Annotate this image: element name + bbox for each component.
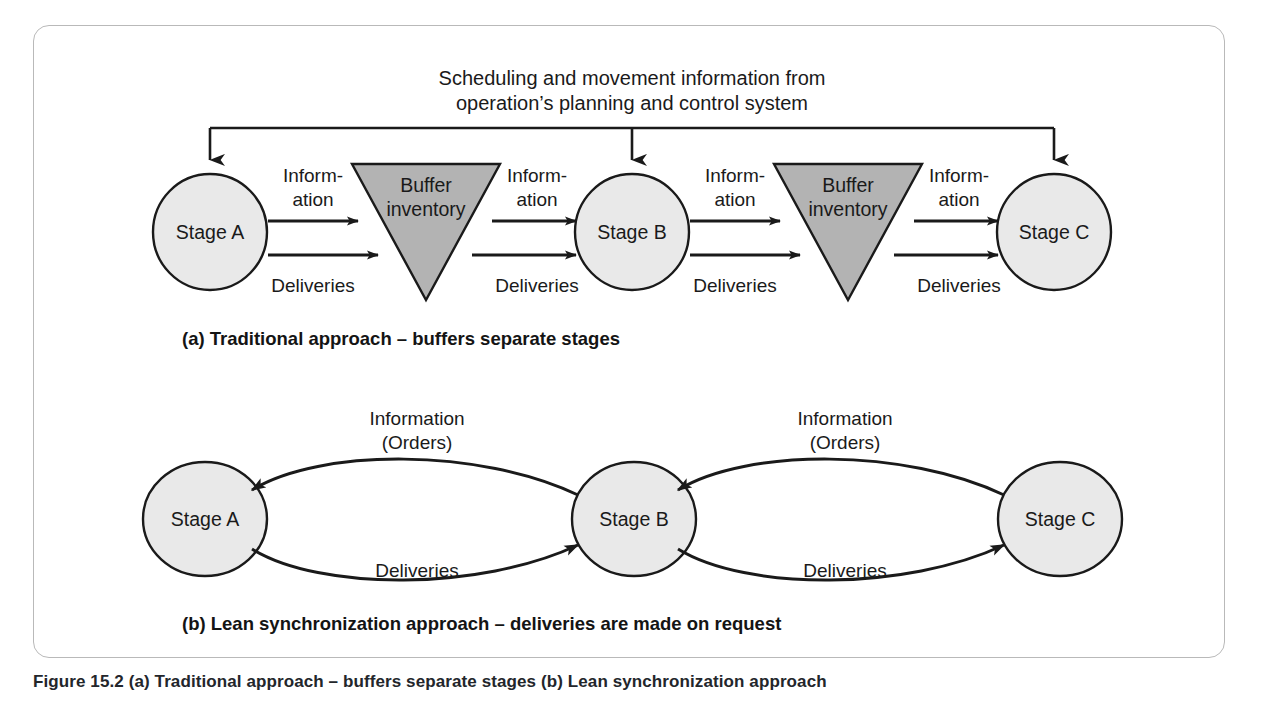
panel-b-stage-a-label: Stage A (171, 508, 239, 530)
diagram-canvas: Scheduling and movement information from… (0, 0, 1264, 702)
panel-a-buffer-2-label-line1: Buffer (822, 174, 874, 196)
panel-b-information-arc-2 (678, 459, 1004, 495)
panel-b-stage-c-label: Stage C (1025, 508, 1095, 530)
panel-a-deliveries-label-1: Deliveries (271, 275, 354, 296)
panel-b-information-label-1-line1: Information (369, 408, 464, 429)
panel-b-group: Stage A Stage B Stage C Information (Ord… (143, 408, 1122, 634)
panel-a-buffer-2-label-line2: inventory (808, 198, 887, 220)
panel-a-buffer-1-label-line2: inventory (386, 198, 465, 220)
panel-a-buffer-1-label-line1: Buffer (400, 174, 452, 196)
panel-b-information-label-1-line2: (Orders) (382, 432, 453, 453)
panel-a-information-label-4-line1: Inform- (929, 165, 989, 186)
panel-a-group: Scheduling and movement information from… (153, 67, 1111, 349)
figure-root: Scheduling and movement information from… (0, 0, 1264, 702)
panel-a-information-label-3-line1: Inform- (705, 165, 765, 186)
panel-b-deliveries-label-2: Deliveries (803, 560, 886, 581)
panel-a-information-label-2-line2: ation (516, 189, 557, 210)
panel-a-header-line2: operation’s planning and control system (456, 92, 808, 114)
panel-a-caption: (a) Traditional approach – buffers separ… (182, 328, 620, 349)
panel-b-information-label-2-line1: Information (797, 408, 892, 429)
panel-b-information-label-2-line2: (Orders) (810, 432, 881, 453)
panel-b-deliveries-label-1: Deliveries (375, 560, 458, 581)
panel-a-deliveries-label-2: Deliveries (495, 275, 578, 296)
panel-a-information-label-1-line2: ation (292, 189, 333, 210)
panel-a-information-label-1-line1: Inform- (283, 165, 343, 186)
panel-b-stage-b-label: Stage B (599, 508, 668, 530)
panel-b-caption: (b) Lean synchronization approach – deli… (182, 613, 781, 634)
panel-a-deliveries-label-3: Deliveries (693, 275, 776, 296)
panel-b-information-arc-1 (252, 459, 578, 495)
panel-a-information-label-2-line1: Inform- (507, 165, 567, 186)
panel-a-stage-c-label: Stage C (1019, 221, 1089, 243)
figure-bottom-caption: Figure 15.2 (a) Traditional approach – b… (33, 672, 827, 702)
panel-a-stage-b-label: Stage B (597, 221, 666, 243)
panel-a-information-label-3-line2: ation (714, 189, 755, 210)
panel-a-header-line1: Scheduling and movement information from (439, 67, 826, 89)
panel-a-information-label-4-line2: ation (938, 189, 979, 210)
panel-a-deliveries-label-4: Deliveries (917, 275, 1000, 296)
panel-a-stage-a-label: Stage A (176, 221, 244, 243)
